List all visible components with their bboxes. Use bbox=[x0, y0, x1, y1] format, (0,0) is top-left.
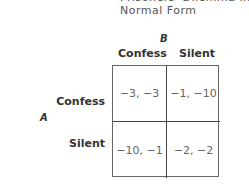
column-header-confess: Confess bbox=[118, 47, 167, 60]
row-header-silent: Silent bbox=[25, 137, 105, 150]
payoff-cell: −2, −2 bbox=[167, 122, 220, 178]
row-player-label: A bbox=[40, 112, 48, 123]
column-header-silent: Silent bbox=[179, 47, 215, 60]
payoff-cell: −1, −10 bbox=[167, 66, 220, 122]
row-header-confess: Confess bbox=[25, 95, 105, 108]
diagram-title: Normal Form bbox=[120, 4, 197, 17]
payoff-cell: −3, −3 bbox=[113, 66, 167, 122]
payoff-cell: −10, −1 bbox=[113, 122, 167, 178]
payoff-matrix: −3, −3 −1, −10 −10, −1 −2, −2 bbox=[112, 65, 219, 177]
column-player-label: B bbox=[160, 33, 168, 44]
